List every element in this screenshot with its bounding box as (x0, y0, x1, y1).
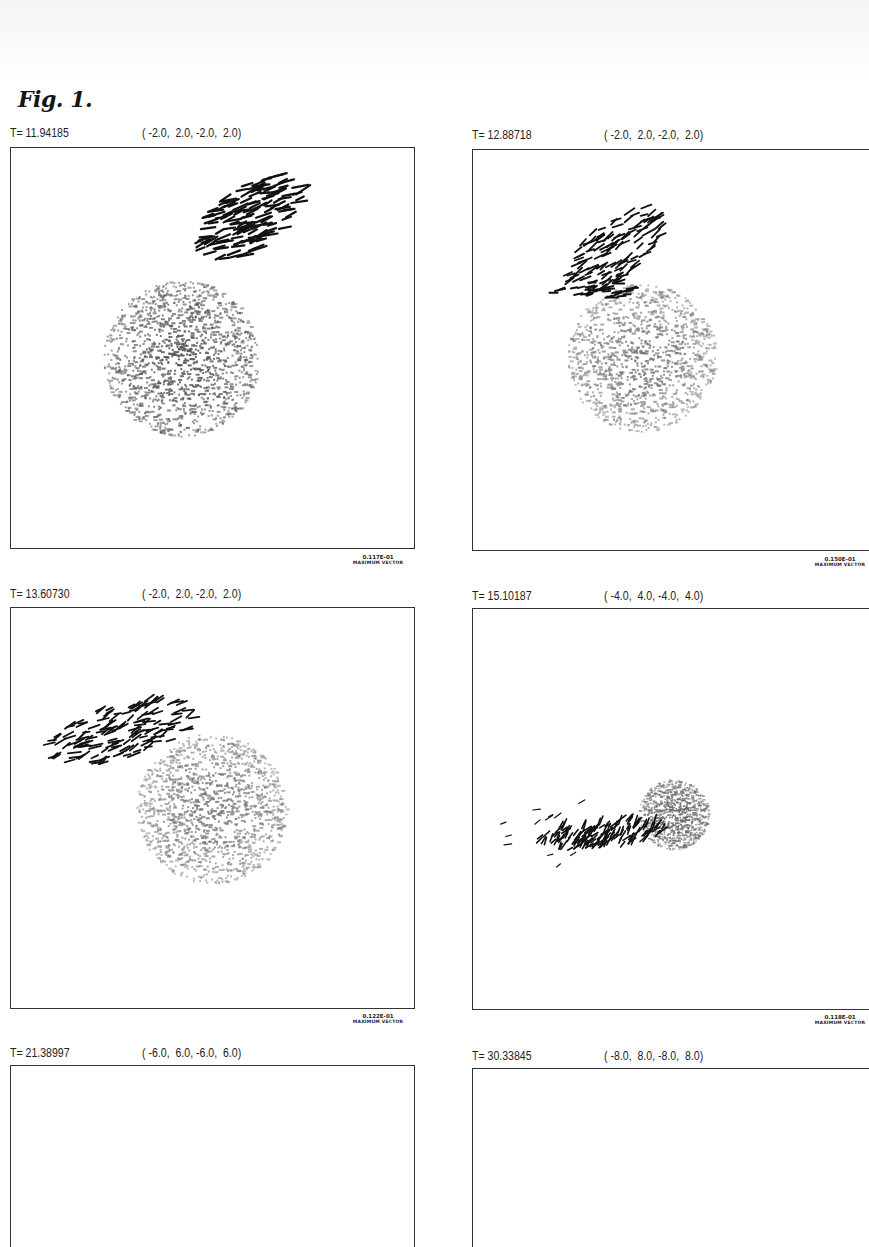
max-vector-legend: 0.150E-01 MAXIMUM VECTOR (800, 557, 869, 567)
plot-canvas (11, 1066, 414, 1247)
time-label: T= 15.10187 (472, 589, 604, 603)
bounds-label: ( -8.0, 8.0, -8.0, 8.0) (604, 1049, 703, 1063)
panel-header: T= 21.38997( -6.0, 6.0, -6.0, 6.0) (10, 1046, 241, 1060)
bounds-label: ( -6.0, 6.0, -6.0, 6.0) (142, 1046, 241, 1060)
plot-frame (472, 608, 869, 1010)
max-vector-legend: 0.117E-01 MAXIMUM VECTOR (338, 555, 418, 565)
panel-header: T= 30.33845( -8.0, 8.0, -8.0, 8.0) (472, 1049, 703, 1063)
plot-frame (10, 607, 415, 1009)
bounds-label: ( -2.0, 2.0, -2.0, 2.0) (142, 587, 241, 601)
panel-header: T= 13.60730( -2.0, 2.0, -2.0, 2.0) (10, 587, 241, 601)
time-label: T= 11.94185 (10, 126, 142, 140)
plot-canvas (473, 1069, 869, 1247)
page-bleed-through (0, 0, 869, 80)
panel-header: T= 12.88718( -2.0, 2.0, -2.0, 2.0) (472, 128, 703, 142)
plot-frame (472, 1068, 869, 1247)
plot-frame (10, 1065, 415, 1247)
time-label: T= 12.88718 (472, 128, 604, 142)
panel-header: T= 15.10187( -4.0, 4.0, -4.0, 4.0) (472, 589, 703, 603)
figure-title: Fig. 1. (18, 86, 92, 112)
plot-canvas (473, 150, 869, 550)
max-vector-legend: 0.122E-01 MAXIMUM VECTOR (338, 1014, 418, 1024)
time-label: T= 30.33845 (472, 1049, 604, 1063)
time-label: T= 21.38997 (10, 1046, 142, 1060)
plot-canvas (11, 148, 414, 548)
time-label: T= 13.60730 (10, 587, 142, 601)
plot-canvas (473, 609, 869, 1009)
bounds-label: ( -2.0, 2.0, -2.0, 2.0) (604, 128, 703, 142)
plot-frame (472, 149, 869, 551)
bounds-label: ( -4.0, 4.0, -4.0, 4.0) (604, 589, 703, 603)
max-vector-legend: 0.118E-01 MAXIMUM VECTOR (800, 1015, 869, 1025)
bounds-label: ( -2.0, 2.0, -2.0, 2.0) (142, 126, 241, 140)
plot-canvas (11, 608, 414, 1008)
plot-frame (10, 147, 415, 549)
panel-header: T= 11.94185( -2.0, 2.0, -2.0, 2.0) (10, 126, 241, 140)
